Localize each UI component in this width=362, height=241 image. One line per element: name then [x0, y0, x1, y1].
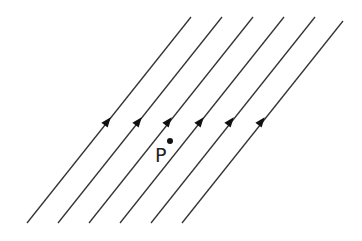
field-line	[58, 17, 222, 223]
field-lines-canvas	[0, 0, 362, 241]
arrowhead-icon	[101, 117, 110, 127]
field-line	[120, 17, 284, 223]
arrowhead-icon	[132, 117, 141, 127]
arrowhead-icon	[162, 117, 171, 127]
field-line	[151, 17, 315, 223]
arrowhead-icon	[224, 117, 233, 127]
arrowhead-icon	[255, 117, 264, 127]
field-line	[89, 17, 253, 223]
point-p-dot	[167, 138, 173, 144]
field-line	[27, 17, 191, 223]
field-diagram: P	[0, 0, 362, 241]
point-p-label: P	[155, 146, 166, 165]
field-line	[182, 21, 343, 223]
arrowhead-icon	[194, 117, 203, 127]
